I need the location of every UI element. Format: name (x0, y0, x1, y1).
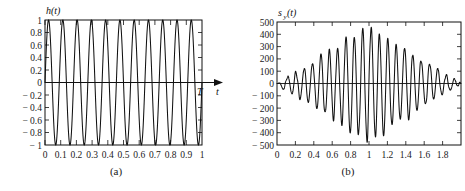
ytick-label: 500 (260, 18, 275, 28)
panel-b-caption: (b) (232, 165, 464, 177)
xtick-label: 0.2 (70, 150, 82, 160)
xtick-label: 0.6 (133, 150, 145, 160)
panel-a-xlabel: t (216, 86, 219, 97)
ytick-label: 0 (37, 78, 42, 88)
xtick-label: 0.3 (86, 150, 98, 160)
ytick-label: 0.6 (30, 41, 42, 51)
figure-container: 1 0.8 0.6 0.4 0.2 0 − 0.2 − 0.4 − 0.6 − … (0, 0, 465, 191)
xtick-label: 0 (43, 150, 48, 160)
xtick-label: 0.5 (118, 150, 130, 160)
ytick-label: − 1 (30, 141, 43, 151)
xtick-label: 0.2 (289, 150, 301, 160)
panel-b-ylabel: s (278, 7, 282, 18)
ytick-label: 400 (260, 30, 275, 40)
ytick-label: 0 (269, 79, 274, 89)
panel-b-waveform (277, 27, 461, 142)
panel-a-svg: 1 0.8 0.6 0.4 0.2 0 − 0.2 − 0.4 − 0.6 − … (0, 0, 232, 168)
ytick-label: 100 (260, 67, 275, 77)
ytick-label: − 400 (252, 128, 274, 138)
panel-a-plot: 1 0.8 0.6 0.4 0.2 0 − 0.2 − 0.4 − 0.6 − … (0, 0, 232, 168)
panel-b-ticks-y: 500 400 300 200 100 0 − 100 − 200 − 300 … (252, 18, 274, 151)
ytick-label: − 500 (252, 141, 274, 151)
panel-b-ylabel-group: s y (t) (278, 7, 297, 21)
xtick-label: 1.4 (400, 150, 412, 160)
xtick-label: 0.6 (326, 150, 338, 160)
xtick-label: 0.4 (102, 150, 114, 160)
xtick-label: 1 (200, 150, 205, 160)
xtick-label: 1.8 (437, 150, 449, 160)
xtick-label: 0.1 (55, 150, 67, 160)
ytick-label: − 100 (252, 91, 274, 101)
xtick-label: 0 (275, 150, 280, 160)
ytick-label: − 0.4 (22, 103, 42, 113)
xtick-label: 0.4 (308, 150, 320, 160)
panel-b-ylabel-tail: (t) (287, 7, 297, 19)
panel-b-ticks-x: 0 0.2 0.4 0.6 0.8 1 1.2 1.4 1.6 1.8 (275, 150, 449, 160)
panel-a-axis-arrow-icon (214, 79, 223, 86)
panel-b-plot: 500 400 300 200 100 0 − 100 − 200 − 300 … (232, 0, 464, 168)
ytick-label: − 0.2 (22, 91, 42, 101)
ytick-label: 1 (37, 16, 42, 26)
ytick-label: − 300 (252, 116, 274, 126)
panel-a-ylabel: h(t) (46, 5, 61, 17)
xtick-label: 0.9 (180, 150, 192, 160)
xtick-label: 1 (367, 150, 372, 160)
ytick-label: − 200 (252, 104, 274, 114)
ytick-label: 200 (260, 54, 275, 64)
ytick-label: − 0.8 (22, 128, 42, 138)
xtick-label: 0.7 (149, 150, 161, 160)
ytick-label: 300 (260, 42, 275, 52)
xtick-label: 0.8 (345, 150, 357, 160)
panel-a-caption: (a) (0, 165, 232, 177)
panel-b: 500 400 300 200 100 0 − 100 − 200 − 300 … (232, 0, 464, 191)
ytick-label: − 0.6 (22, 116, 42, 126)
xtick-label: 1.2 (381, 150, 393, 160)
panel-a-T-marker: T (197, 86, 204, 97)
panel-a: 1 0.8 0.6 0.4 0.2 0 − 0.2 − 0.4 − 0.6 − … (0, 0, 232, 191)
panel-a-ticks-y: 1 0.8 0.6 0.4 0.2 0 − 0.2 − 0.4 − 0.6 − … (22, 16, 42, 151)
ytick-label: 0.2 (30, 66, 42, 76)
xtick-label: 1.6 (418, 150, 430, 160)
panel-b-svg: 500 400 300 200 100 0 − 100 − 200 − 300 … (232, 0, 464, 168)
ytick-label: 0.4 (30, 53, 42, 63)
ytick-label: 0.8 (30, 28, 42, 38)
xtick-label: 0.8 (165, 150, 177, 160)
panel-a-ticks-x: 0 0.1 0.2 0.3 0.4 0.5 0.6 0.7 0.8 0.9 1 (43, 150, 205, 160)
